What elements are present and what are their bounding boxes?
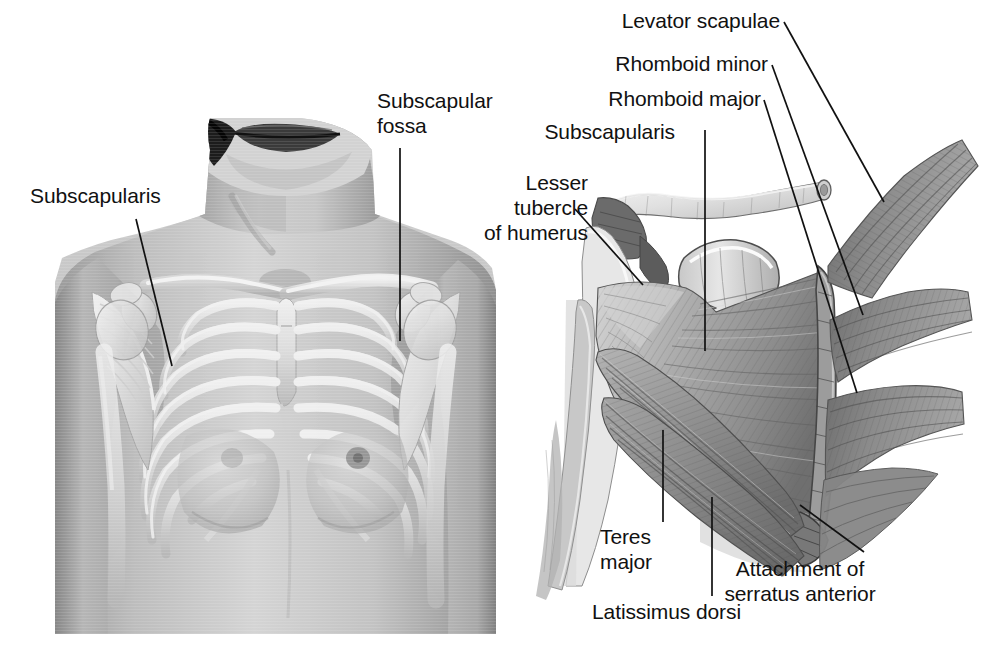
label-rhomboid-major: Rhomboid major [495, 86, 761, 111]
serratus-anterior-digitations [820, 140, 979, 570]
label-attachment-of-serratus-anterior: Attachment ofserratus anterior [692, 556, 908, 606]
label-levator-scapulae: Levator scapulae [495, 8, 780, 33]
clavicle [606, 180, 831, 220]
anatomy-figure: Subscapularis Subscapularfossa Lessertub… [0, 0, 990, 658]
label-subscapularis-right: Subscapularis [430, 119, 675, 144]
label-rhomboid-minor: Rhomboid minor [495, 51, 768, 76]
label-lesser-tubercle-of-humerus: Lessertubercleof humerus [458, 170, 588, 245]
leader-levator-scapulae [784, 22, 884, 202]
label-subscapularis-left: Subscapularis [30, 183, 161, 208]
